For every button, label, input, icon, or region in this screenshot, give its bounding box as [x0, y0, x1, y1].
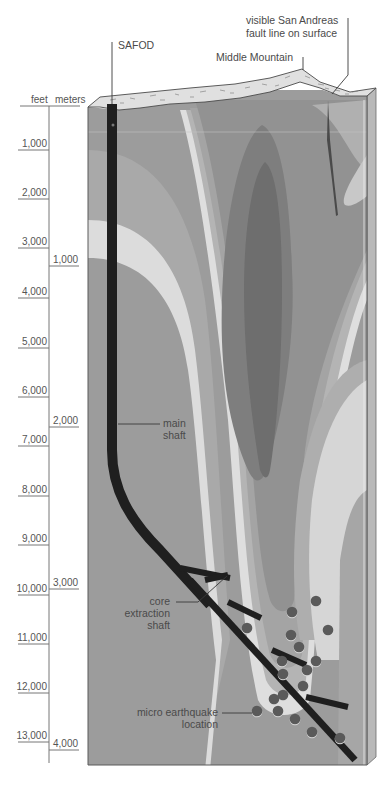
- micro-earthquake-dot: [311, 656, 322, 667]
- quake-label-line1: micro earthquake: [137, 706, 218, 718]
- depth-axes: feet meters 1,0002,0003,0004,0005,0006,0…: [16, 94, 85, 763]
- micro-earthquake-dot: [323, 625, 334, 636]
- meters-tick-label: 1,000: [53, 254, 78, 265]
- safod-cross-section-diagram: feet meters 1,0002,0003,0004,0005,0006,0…: [0, 0, 391, 792]
- feet-tick-label: 11,000: [17, 632, 47, 643]
- feet-tick-label: 12,000: [16, 681, 47, 692]
- meter-ticks: 1,0002,0003,0004,000: [49, 254, 79, 750]
- micro-earthquake-dot: [290, 714, 301, 725]
- block-side-face: [367, 88, 376, 765]
- feet-ticks: 1,0002,0003,0004,0005,0006,0007,0008,000…: [16, 138, 49, 742]
- feet-tick-label: 3,000: [22, 236, 47, 247]
- micro-earthquake-dot: [307, 727, 318, 738]
- fault-label-line2: fault line on surface: [246, 27, 337, 39]
- meters-tick-label: 2,000: [53, 415, 78, 426]
- micro-earthquake-dot: [269, 694, 280, 705]
- micro-earthquake-dot: [286, 630, 297, 641]
- feet-tick-label: 8,000: [22, 484, 47, 495]
- micro-earthquake-dot: [252, 706, 263, 717]
- micro-earthquake-dot: [273, 706, 284, 717]
- feet-tick-label: 4,000: [22, 286, 47, 297]
- feet-tick-label: 2,000: [22, 187, 47, 198]
- meters-axis-header: meters: [55, 94, 86, 105]
- micro-earthquake-dot: [335, 733, 346, 744]
- middle-mountain-label: Middle Mountain: [216, 51, 293, 63]
- micro-earthquake-dot: [277, 656, 288, 667]
- block-front-face: [88, 90, 368, 770]
- meters-tick-label: 4,000: [53, 738, 78, 749]
- core-label-line3: shaft: [147, 619, 170, 631]
- feet-tick-label: 10,000: [16, 583, 47, 594]
- fault-label-line1: visible San Andreas: [246, 14, 338, 26]
- feet-tick-label: 9,000: [22, 533, 47, 544]
- shaft-marker: [112, 124, 115, 127]
- feet-tick-label: 5,000: [22, 336, 47, 347]
- micro-earthquake-dot: [311, 596, 322, 607]
- micro-earthquake-dot: [302, 665, 313, 676]
- feet-tick-label: 7,000: [22, 434, 47, 445]
- feet-tick-label: 6,000: [22, 385, 47, 396]
- main-shaft-label-line2: shaft: [163, 429, 186, 441]
- main-shaft-label-line1: main: [163, 417, 186, 429]
- micro-earthquake-dot: [298, 681, 309, 692]
- micro-earthquake-dot: [287, 607, 298, 618]
- quake-label-line2: location: [182, 718, 218, 730]
- core-label-line1: core: [150, 595, 171, 607]
- feet-tick-label: 1,000: [22, 138, 47, 149]
- micro-earthquake-dot: [242, 623, 253, 634]
- meters-tick-label: 3,000: [53, 577, 78, 588]
- micro-earthquake-dot: [278, 669, 289, 680]
- feet-axis-header: feet: [31, 94, 48, 105]
- core-label-line2: extraction: [124, 607, 170, 619]
- micro-earthquake-dot: [294, 642, 305, 653]
- safod-label: SAFOD: [118, 39, 155, 51]
- feet-tick-label: 13,000: [16, 730, 47, 741]
